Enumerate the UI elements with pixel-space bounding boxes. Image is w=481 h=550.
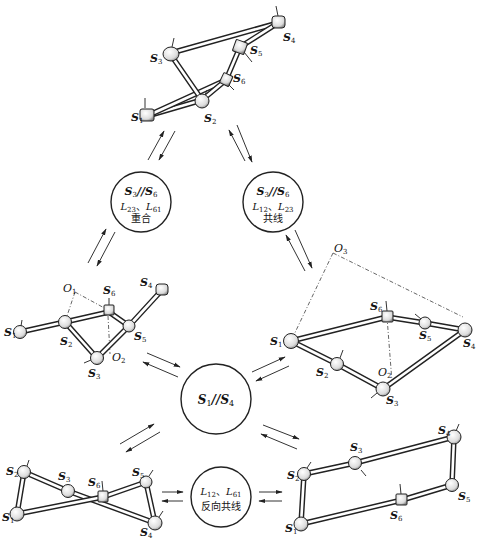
joint-s6 [396,484,407,505]
arrows-top-right [229,125,252,162]
diagram-canvas: S1 S2 S3 S4 S5 S6 S3//S6 L23、L61 重合 S3//… [0,0,481,550]
joint-s2 [331,350,344,371]
joint-s2 [59,316,72,329]
label-s1: S1 [270,335,282,349]
label-s3: S3 [88,367,100,381]
label-o3: O3 [334,242,348,256]
joint-s5 [446,479,459,492]
arrows-bottom-right [261,425,299,449]
cond-parallel-s1-s4: S1//S4 [198,393,234,408]
label-o2: O2 [378,366,392,380]
mechanism-middle-left: S1 S2 S3 S4 S5 S6 O1 O2 [4,276,168,381]
label-s3: S3 [150,52,162,66]
cond-parallel-s3-s6-b: S3//S6 [257,185,290,199]
label-s2: S2 [6,465,18,479]
cond-text-collinear: 共线 [263,212,283,224]
joint-s6 [219,72,234,90]
label-s6: S6 [233,72,246,86]
joint-s4 [272,6,285,28]
label-s2: S2 [316,366,328,380]
arrows-center-right [252,357,289,381]
label-o2: O2 [112,351,126,365]
arrows-left-mid [88,229,115,266]
mechanism-transformation-diagram: S1 S2 S3 S4 S5 S6 S3//S6 L23、L61 重合 S3//… [0,0,481,550]
label-s4: S4 [438,424,451,438]
joint-s2 [18,460,31,479]
arrows-bottom-center-left [162,492,183,501]
arrows-center-left [143,353,180,377]
label-o1: O1 [63,282,77,296]
cond-parallel-s3-s6: S3//S6 [125,185,158,199]
label-s5: S5 [250,44,262,58]
label-s3: S3 [58,470,70,484]
condition-circle-s3-s6-collinear: S3//S6 L12、L23 共线 [243,172,303,232]
joint-s3 [163,38,179,61]
arrows-bottom-left [120,424,160,452]
joint-s3 [62,485,75,498]
label-s3: S3 [350,441,362,455]
label-s5: S5 [132,466,144,480]
label-s3: S3 [386,394,398,408]
arrows-top-left [148,131,175,160]
arrows-right-mid [286,230,312,271]
mechanism-middle-right: S1 S2 S3 S4 S5 S6 O3 O2 [270,242,476,408]
mechanism-top: S1 S2 S3 S4 S5 S6 [131,6,296,126]
joint-s3 [84,352,104,365]
joint-s2 [298,462,312,481]
label-s6: S6 [390,509,403,523]
arrows-bottom-center-right [259,492,282,501]
mechanism-bottom-left: S1 S2 S3 S4 S5 S6 [2,460,163,540]
label-s2: S2 [60,335,72,349]
joint-s4 [156,284,168,295]
label-s4: S4 [463,337,476,351]
label-s6: S6 [103,284,116,298]
label-s4: S4 [283,31,296,45]
label-s4: S4 [140,276,153,290]
cond-text-coincident: 重合 [131,212,151,224]
label-s5: S5 [134,330,146,344]
joint-s4 [458,323,472,337]
label-s6: S6 [88,476,101,490]
condition-circle-s3-s6-coincident: S3//S6 L23、L61 重合 [111,172,171,232]
label-s5: S5 [419,329,431,343]
label-s2: S2 [287,469,299,483]
joint-s6 [104,298,114,315]
label-s5: S5 [458,490,470,504]
cond-text-opposite-collinear: 反向共线 [201,500,241,512]
mechanism-bottom-right: S1 S2 S3 S4 S5 S6 [285,424,470,536]
label-s6: S6 [370,300,383,314]
condition-circle-l12-l61-opposite-collinear: L12、L61 反向共线 [191,467,251,527]
condition-circle-s1-s4-parallel: S1//S4 [181,364,251,434]
joint-s6 [382,301,393,322]
joint-s1 [284,334,299,349]
label-s2: S2 [204,112,216,126]
